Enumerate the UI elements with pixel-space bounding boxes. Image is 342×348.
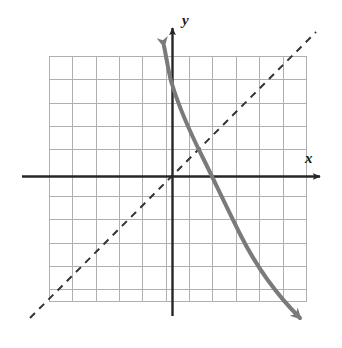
graph-figure: y x (0, 0, 342, 348)
x-axis-label: x (305, 151, 313, 166)
y-axis-label: y (182, 13, 189, 28)
coordinate-plot (0, 0, 342, 348)
